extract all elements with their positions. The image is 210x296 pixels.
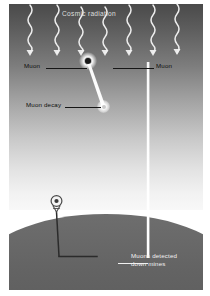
leader-line-muon-left: [46, 68, 87, 69]
label-muons-detected-line1: Muons detected: [131, 252, 177, 260]
leader-line-muon-right: [113, 68, 154, 69]
label-muon-decay: Muon decay: [26, 101, 61, 109]
leader-line-muon-decay: [65, 107, 101, 108]
label-muon-right: Muon: [156, 62, 172, 70]
diagram-title: Cosmic radiation: [62, 10, 116, 18]
mine-headframe-icon: [51, 196, 62, 212]
label-muon-left: Muon: [24, 62, 40, 70]
cosmic-radiation-diagram: Cosmic radiation Muon Muon Muon decay Mu…: [0, 0, 210, 296]
leader-line-mines-stub: [118, 263, 148, 264]
label-muons-detected-line2: down mines: [131, 260, 166, 268]
headframe-layer: [0, 0, 210, 296]
